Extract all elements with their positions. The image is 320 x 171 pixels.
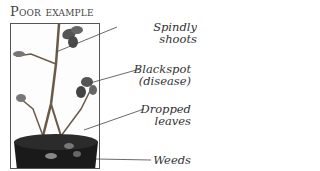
label-spindly-shoots: Spindly shoots [117,21,197,45]
label-dropped-leaves: Dropped leaves [140,103,191,127]
label-blackspot: Blackspot (disease) [134,63,191,87]
label-weeds: Weeds [153,154,191,166]
